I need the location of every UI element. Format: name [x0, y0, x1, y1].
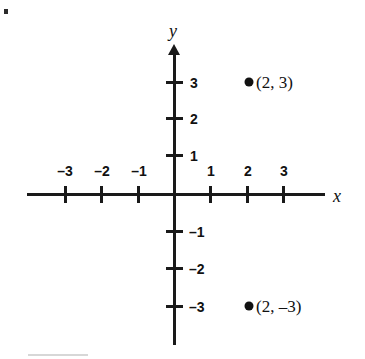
y-tick-label-pos2: 2 [190, 112, 198, 126]
x-tick-mark [282, 186, 285, 203]
x-axis-label: x [333, 187, 341, 205]
x-tick-mark [246, 186, 249, 203]
x-tick-mark [137, 186, 140, 203]
x-tick-label-neg3: –3 [57, 164, 73, 178]
x-tick-mark [100, 186, 103, 203]
x-tick-label-pos1: 1 [207, 164, 215, 178]
y-axis-arrowhead-icon [168, 44, 180, 55]
y-tick-mark [166, 230, 183, 233]
y-tick-label-pos3: 3 [190, 76, 198, 90]
point-marker-2-neg3 [245, 302, 254, 311]
y-tick-mark [166, 81, 183, 84]
coordinate-plane-figure: –3 –2 –1 1 2 3 3 2 1 –1 –2 –3 y x (2, 3)… [0, 0, 365, 359]
point-label-2-neg3: (2, –3) [256, 298, 301, 315]
x-tick-label-pos3: 3 [280, 164, 288, 178]
x-tick-label-pos2: 2 [244, 164, 252, 178]
y-tick-label-pos1: 1 [190, 149, 198, 163]
y-tick-label-neg2: –2 [189, 262, 205, 276]
point-marker-2-3 [245, 78, 254, 87]
x-tick-mark [209, 186, 212, 203]
x-tick-label-neg1: –1 [131, 164, 147, 178]
y-axis-line [173, 52, 176, 345]
y-tick-mark [166, 305, 183, 308]
bottom-rule-artifact [28, 354, 88, 356]
y-tick-mark [166, 267, 183, 270]
scan-speck-artifact [4, 9, 8, 14]
x-tick-label-neg2: –2 [94, 164, 110, 178]
y-tick-mark [166, 117, 183, 120]
y-tick-label-neg1: –1 [189, 225, 205, 239]
y-tick-mark [166, 154, 183, 157]
y-axis-label: y [169, 22, 177, 40]
point-label-2-3: (2, 3) [256, 74, 293, 91]
x-tick-mark [64, 186, 67, 203]
x-axis-line [27, 193, 325, 196]
y-tick-label-neg3: –3 [189, 300, 205, 314]
